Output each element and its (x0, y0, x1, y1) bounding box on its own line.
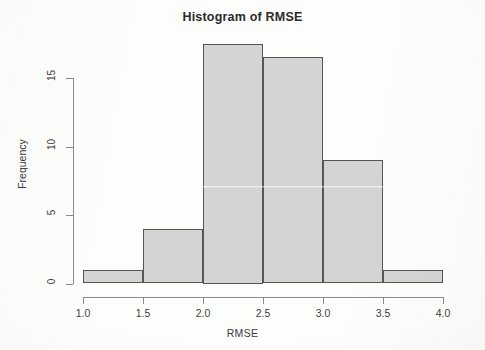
x-axis-tick (83, 297, 84, 304)
y-axis-tick-label: 15 (46, 65, 57, 87)
histogram-bar (383, 270, 443, 284)
x-axis-tick-label: 2.5 (243, 307, 283, 319)
histogram-bar (143, 229, 203, 284)
y-axis-tick (66, 78, 73, 79)
x-axis-tick (263, 297, 264, 304)
x-axis-tick (143, 297, 144, 304)
x-axis-tick-label: 3.0 (303, 307, 343, 319)
histogram-bar (83, 270, 143, 284)
x-axis-tick-label: 4.0 (423, 307, 463, 319)
y-axis-tick (66, 147, 73, 148)
y-axis-line (73, 78, 74, 284)
histogram-bar (203, 44, 263, 284)
x-axis-tick (323, 297, 324, 304)
x-axis-tick (383, 297, 384, 304)
y-axis-tick-label: 0 (46, 270, 57, 292)
y-axis-tick (66, 215, 73, 216)
histogram-bar (263, 57, 323, 283)
histogram-bar (323, 160, 383, 283)
x-axis-tick (443, 297, 444, 304)
x-axis-title: RMSE (0, 327, 485, 339)
x-axis-tick-label: 1.0 (63, 307, 103, 319)
y-axis-tick (66, 284, 73, 285)
y-axis-tick-label: 5 (46, 202, 57, 224)
x-axis-tick (203, 297, 204, 304)
y-axis-tick-label: 10 (46, 133, 57, 155)
x-axis-tick-label: 3.5 (363, 307, 403, 319)
histogram-figure: Histogram of RMSE 051015 Frequency 1.01.… (0, 0, 485, 350)
x-axis-tick-label: 2.0 (183, 307, 223, 319)
y-axis-title: Frequency (16, 124, 28, 204)
plot-area: 051015 Frequency 1.01.52.02.53.03.54.0 R… (0, 0, 485, 350)
x-axis-tick-label: 1.5 (123, 307, 163, 319)
